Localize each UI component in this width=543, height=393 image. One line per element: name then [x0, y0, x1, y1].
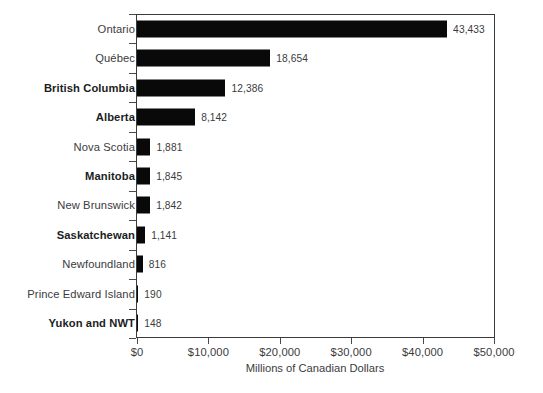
category-label: Québec	[95, 52, 135, 64]
bar-row: Newfoundland816	[0, 250, 543, 279]
category-label: Yukon and NWT	[49, 317, 135, 329]
bar	[137, 226, 145, 243]
category-label: New Brunswick	[57, 199, 135, 211]
bar-value-label: 12,386	[231, 82, 263, 93]
category-label: Prince Edward Island	[27, 288, 135, 300]
y-axis-tick	[129, 14, 136, 15]
bar-value-label: 1,141	[151, 229, 177, 240]
x-axis: Millions of Canadian Dollars $0$10,000$2…	[0, 338, 543, 393]
bar-value-label: 43,433	[453, 23, 485, 34]
bar	[137, 315, 138, 332]
bar-value-label: 148	[144, 318, 161, 329]
category-label: Saskatchewan	[57, 229, 135, 241]
bar	[137, 20, 447, 37]
x-axis-tick-label: $20,000	[259, 346, 300, 358]
bar-row: Québec18,654	[0, 43, 543, 72]
bar-row: Manitoba1,845	[0, 161, 543, 190]
category-label: Ontario	[98, 23, 135, 35]
bar	[137, 256, 143, 273]
x-axis-tick	[137, 338, 138, 344]
bar	[137, 79, 225, 96]
x-axis-tick	[208, 338, 209, 344]
bar	[137, 109, 195, 126]
bar-rows-container: Ontario43,433Québec18,654British Columbi…	[0, 14, 543, 338]
x-axis-tick	[351, 338, 352, 344]
y-axis-tick	[129, 191, 136, 192]
bar-row: New Brunswick1,842	[0, 191, 543, 220]
bar	[137, 138, 150, 155]
y-axis-tick	[129, 132, 136, 133]
bar	[137, 167, 150, 184]
category-label: Newfoundland	[62, 258, 135, 270]
x-axis-tick-label: $0	[131, 346, 144, 358]
bar-row: Saskatchewan1,141	[0, 220, 543, 249]
y-axis-tick	[129, 250, 136, 251]
bar	[137, 285, 138, 302]
bar-value-label: 1,842	[156, 200, 182, 211]
category-label: Manitoba	[85, 170, 135, 182]
y-axis-tick	[129, 220, 136, 221]
bar-chart-figure: Ontario43,433Québec18,654British Columbi…	[0, 0, 543, 393]
y-axis-tick	[129, 73, 136, 74]
bar-row: Nova Scotia1,881	[0, 132, 543, 161]
bar-value-label: 1,881	[156, 141, 182, 152]
x-axis-tick-label: $30,000	[331, 346, 372, 358]
bar-value-label: 8,142	[201, 112, 227, 123]
x-axis-tick	[494, 338, 495, 344]
y-axis-tick	[129, 279, 136, 280]
bar	[137, 197, 150, 214]
category-label: British Columbia	[44, 82, 135, 94]
y-axis-tick	[129, 43, 136, 44]
bar-value-label: 816	[149, 259, 166, 270]
bar-row: Ontario43,433	[0, 14, 543, 43]
x-axis-tick-label: $40,000	[402, 346, 443, 358]
bar	[137, 50, 270, 67]
y-axis-tick	[129, 309, 136, 310]
y-axis-tick	[129, 102, 136, 103]
bar-row: Yukon and NWT148	[0, 309, 543, 338]
x-axis-tick	[280, 338, 281, 344]
bar-row: British Columbia12,386	[0, 73, 543, 102]
bar-value-label: 190	[144, 288, 161, 299]
x-axis-title: Millions of Canadian Dollars	[246, 362, 385, 374]
category-label: Nova Scotia	[74, 141, 135, 153]
x-axis-tick-label: $50,000	[473, 346, 514, 358]
y-axis-tick	[129, 161, 136, 162]
category-label: Alberta	[96, 111, 135, 123]
bar-row: Alberta8,142	[0, 102, 543, 131]
x-axis-tick	[423, 338, 424, 344]
bar-value-label: 18,654	[276, 53, 308, 64]
bar-row: Prince Edward Island190	[0, 279, 543, 308]
x-axis-tick-label: $10,000	[188, 346, 229, 358]
bar-value-label: 1,845	[156, 170, 182, 181]
